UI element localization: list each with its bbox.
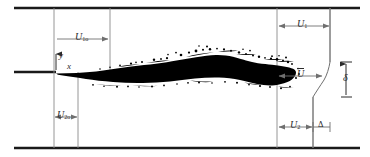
label-mean-velocity: U: [297, 69, 304, 79]
label-axis-y: y: [59, 51, 63, 60]
label-u2: U2: [290, 120, 300, 131]
label-u2o: U2o: [57, 110, 70, 121]
label-u1o: U1o: [75, 32, 88, 43]
label-axis-x: x: [67, 62, 71, 71]
label-u1: U1: [297, 19, 307, 30]
turbulent-mixing-region: [56, 45, 300, 89]
label-delta-offset: Δ: [318, 120, 323, 129]
figure-canvas: [0, 0, 370, 157]
mixing-layer-figure: U1o U2o U1 U2 U δ Δ y x: [0, 0, 370, 157]
label-delta-thickness: δ: [343, 73, 348, 83]
